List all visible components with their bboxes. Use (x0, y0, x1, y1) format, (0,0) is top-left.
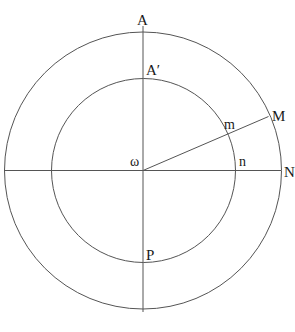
label-N: N (284, 164, 295, 180)
label-n: n (239, 154, 246, 169)
label-A: A (137, 12, 148, 28)
label-omega: ω (130, 154, 139, 169)
label-P: P (146, 247, 154, 263)
ray-omega-to-M (143, 117, 269, 171)
label-m: m (224, 117, 235, 132)
geometry-diagram: A A′ M m ω n N P (0, 0, 295, 332)
label-M: M (272, 108, 285, 124)
label-A-prime: A′ (146, 62, 160, 78)
